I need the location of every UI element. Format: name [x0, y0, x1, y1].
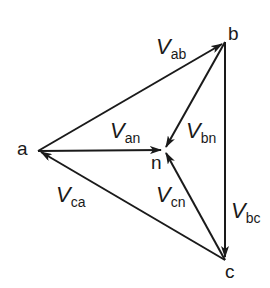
vector-label-van: Van — [110, 120, 140, 142]
node-label-a: a — [17, 139, 28, 158]
vector-van — [38, 150, 161, 151]
vector-label-vbn: Vbn — [186, 120, 216, 142]
vector-label-vbc: Vbc — [231, 200, 260, 222]
node-label-c: c — [225, 262, 235, 281]
vector-label-vab: Vab — [156, 36, 186, 58]
vector-label-vcn: Vcn — [156, 184, 185, 206]
node-label-b: b — [228, 24, 239, 43]
node-label-n: n — [151, 153, 162, 172]
vector-label-vca: Vca — [56, 184, 85, 206]
